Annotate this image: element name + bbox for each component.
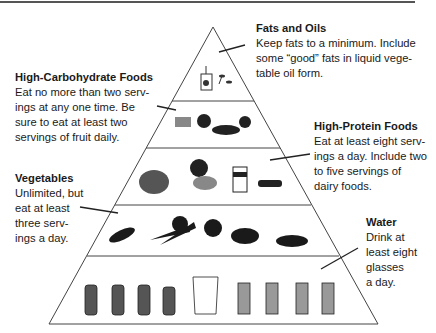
tier-vegetables-label: Vegetables Unlimited, but eat at least t… bbox=[15, 171, 83, 246]
tier-carbs-label: High-Carbohydrate Foods Eat no more than… bbox=[15, 70, 153, 145]
carb-icons bbox=[175, 114, 251, 135]
water-icons bbox=[85, 277, 334, 315]
veg-icons bbox=[107, 216, 308, 247]
fats-icons bbox=[201, 66, 232, 90]
protein-icons bbox=[139, 159, 282, 194]
tier-fats-label: Fats and Oils Keep fats to a minimum. In… bbox=[256, 21, 416, 81]
tier-water-label: Water Drink at least eight glasses a day… bbox=[366, 215, 417, 290]
tier-protein-label: High-Protein Foods Eat at least eight se… bbox=[314, 119, 427, 194]
